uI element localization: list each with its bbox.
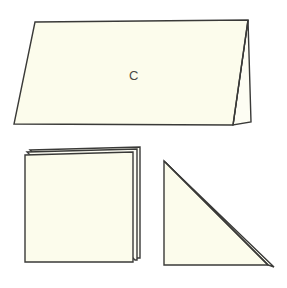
square-card-group [25, 147, 140, 262]
paper-folding-figure: C [0, 0, 287, 288]
square-card-front-panel [25, 152, 133, 262]
triangle-fold-group [164, 161, 274, 267]
figure-canvas: C [0, 0, 287, 288]
tent-card-group: C [14, 20, 251, 125]
tent-card-label: C [129, 68, 139, 83]
